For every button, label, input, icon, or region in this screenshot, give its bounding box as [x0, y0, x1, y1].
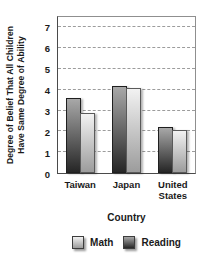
bar-chart-figure: Degree of Belief That All Children Have …: [0, 0, 211, 269]
legend-label-math: Math: [90, 237, 113, 248]
bar-reading-taiwan: [66, 98, 81, 173]
x-category-label-united-states: United States: [150, 179, 196, 201]
legend-swatch-math: [72, 236, 84, 249]
legend-label-reading: Reading: [141, 237, 180, 248]
y-axis-title: Degree of Belief That All Children Have …: [5, 0, 27, 190]
y-tick-label-5: 5: [45, 64, 50, 73]
y-axis-ticks: 01234567: [30, 16, 50, 174]
x-category-label-japan: Japan: [103, 179, 149, 201]
bar-math-taiwan: [80, 113, 95, 173]
x-axis-title: Country: [57, 212, 196, 223]
y-tick-label-3: 3: [45, 106, 50, 115]
legend-item-reading: Reading: [123, 236, 180, 249]
legend-swatch-reading: [123, 236, 135, 249]
y-tick-label-0: 0: [45, 170, 50, 179]
bar-groups: [58, 17, 195, 173]
bar-math-united-states: [172, 130, 187, 173]
bar-group-japan: [112, 17, 141, 173]
plot-area: [57, 16, 196, 174]
y-axis-title-line1: Degree of Belief That All Children: [5, 0, 16, 190]
bar-group-united-states: [158, 17, 187, 173]
x-category-label-taiwan: Taiwan: [57, 179, 103, 201]
y-tick-label-7: 7: [45, 22, 50, 31]
y-tick-label-4: 4: [45, 85, 50, 94]
x-axis-labels: TaiwanJapanUnited States: [57, 179, 196, 201]
bar-group-taiwan: [66, 17, 95, 173]
legend: MathReading: [57, 236, 196, 249]
y-axis-title-line2: Have Same Degree of Ability: [16, 0, 27, 190]
y-tick-label-1: 1: [45, 148, 50, 157]
legend-item-math: Math: [72, 236, 113, 249]
bar-reading-united-states: [158, 127, 173, 173]
y-tick-label-6: 6: [45, 43, 50, 52]
bar-reading-japan: [112, 86, 127, 173]
bar-math-japan: [126, 88, 141, 173]
y-tick-label-2: 2: [45, 127, 50, 136]
